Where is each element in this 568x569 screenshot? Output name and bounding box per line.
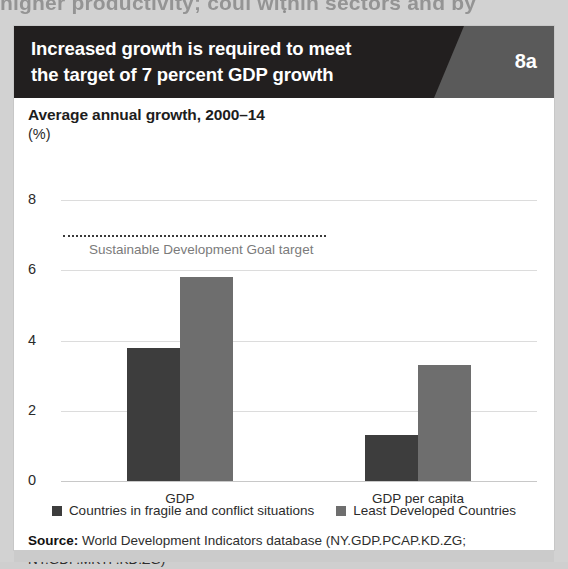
y-axis-tick-label: 6 <box>6 261 36 277</box>
bar <box>365 435 418 481</box>
bar <box>180 277 233 481</box>
bar-group <box>61 200 299 481</box>
legend-swatch-icon <box>336 506 346 516</box>
y-axis-tick-label: 0 <box>6 472 36 488</box>
figure-banner: Increased growth is required to meet the… <box>14 26 554 98</box>
figure-card: Increased growth is required to meet the… <box>14 26 554 550</box>
bar <box>418 365 471 481</box>
figure-number-badge: 8a <box>515 50 537 73</box>
page-bleed-dot <box>283 10 286 13</box>
gridline-0 <box>61 481 537 482</box>
figure-title: Increased growth is required to meet the… <box>31 36 431 88</box>
chart-legend: Countries in fragile and conflict situat… <box>14 503 554 518</box>
figure-title-line-2: the target of 7 percent GDP growth <box>31 62 431 88</box>
y-axis-tick-label: 8 <box>6 191 36 207</box>
bar-chart: 02468Sustainable Development Goal target… <box>14 98 554 550</box>
legend-item: Least Developed Countries <box>336 503 516 518</box>
page-bleed-text: higher productivity; coul within sectors… <box>0 0 568 17</box>
legend-label: Least Developed Countries <box>353 503 516 518</box>
legend-item: Countries in fragile and conflict situat… <box>52 503 314 518</box>
page-bottom-shade <box>14 550 554 562</box>
source-label: Source: <box>28 533 78 548</box>
y-axis-tick-label: 4 <box>6 332 36 348</box>
figure-title-line-1: Increased growth is required to meet <box>31 36 431 62</box>
bar-group <box>299 200 537 481</box>
legend-swatch-icon <box>52 506 62 516</box>
chart-plot-area: 02468Sustainable Development Goal target… <box>61 200 537 481</box>
bar <box>127 348 180 481</box>
y-axis-tick-label: 2 <box>6 402 36 418</box>
legend-label: Countries in fragile and conflict situat… <box>69 503 314 518</box>
figure-body: Average annual growth, 2000–14 (%) 02468… <box>14 98 554 550</box>
